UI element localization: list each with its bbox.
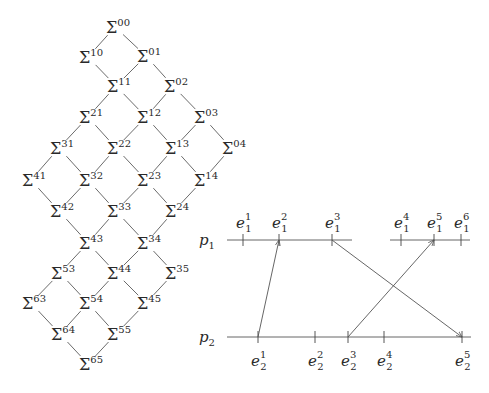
lattice-edge bbox=[210, 125, 223, 140]
event-label: e32 bbox=[341, 349, 357, 372]
lattice-node: Σ53 bbox=[51, 263, 75, 283]
lattice-nodes: Σ00Σ10Σ01Σ11Σ02Σ21Σ12Σ03Σ31Σ22Σ13Σ04Σ41Σ… bbox=[22, 17, 246, 374]
lattice-node: Σ42 bbox=[50, 201, 74, 221]
lattice-edge bbox=[181, 94, 196, 109]
lattice-edge bbox=[95, 311, 108, 326]
message-arrow bbox=[258, 240, 279, 337]
lattice-edge bbox=[153, 125, 166, 140]
lattice-node: Σ54 bbox=[79, 293, 103, 313]
lattice-node: Σ11 bbox=[107, 76, 131, 96]
lattice-node: Σ45 bbox=[137, 293, 161, 313]
lattice-node: Σ03 bbox=[194, 107, 218, 127]
event-label: e31 bbox=[325, 211, 341, 234]
lattice-node: Σ00 bbox=[106, 17, 130, 37]
lattice-edge bbox=[95, 188, 108, 203]
lattice-edge bbox=[124, 156, 139, 172]
event-label: e21 bbox=[272, 211, 288, 234]
lattice-node: Σ23 bbox=[137, 170, 161, 190]
lattice-edge bbox=[124, 94, 139, 109]
lattice-edge bbox=[39, 311, 53, 326]
event-label: e22 bbox=[308, 349, 324, 372]
process-label: p2 bbox=[199, 328, 215, 348]
event-label: e51 bbox=[427, 211, 443, 234]
lattice-node: Σ22 bbox=[107, 138, 131, 158]
event-label: e52 bbox=[455, 349, 471, 372]
event-label: e41 bbox=[394, 211, 410, 234]
lattice-node: Σ14 bbox=[194, 170, 218, 190]
lattice-edge bbox=[66, 156, 80, 172]
lattice-node: Σ32 bbox=[79, 170, 103, 190]
event-label: e42 bbox=[377, 349, 393, 372]
lattice-node: Σ24 bbox=[165, 201, 189, 221]
lattice-node: Σ44 bbox=[107, 263, 131, 283]
lattice-edge bbox=[181, 156, 195, 172]
lattice-node: Σ02 bbox=[164, 76, 188, 96]
lattice-edge bbox=[153, 64, 165, 78]
lattice-edge bbox=[68, 281, 81, 295]
message-arrow bbox=[332, 240, 462, 337]
lattice-node: Σ21 bbox=[79, 107, 103, 127]
sigma-lattice: Σ00Σ10Σ01Σ11Σ02Σ21Σ12Σ03Σ31Σ22Σ13Σ04Σ41Σ… bbox=[22, 17, 246, 374]
lattice-node: Σ43 bbox=[79, 233, 103, 253]
process-label: p1 bbox=[199, 231, 215, 251]
lattice-node: Σ10 bbox=[79, 47, 103, 67]
lattice-node: Σ65 bbox=[79, 354, 103, 374]
event-labels: p1e11e21e31e41e51e61p2e12e22e32e42e52 bbox=[199, 211, 471, 372]
lattice-node: Σ04 bbox=[222, 138, 246, 158]
lattice-node: Σ12 bbox=[137, 107, 161, 127]
process-lines bbox=[227, 234, 471, 343]
space-time-diagram: p1e11e21e31e41e51e61p2e12e22e32e42e52 bbox=[199, 211, 471, 372]
lattice-edge bbox=[153, 188, 166, 203]
lattice-node: Σ63 bbox=[22, 293, 46, 313]
lattice-node: Σ33 bbox=[107, 201, 131, 221]
lattice-node: Σ34 bbox=[137, 233, 161, 253]
lattice-node: Σ41 bbox=[22, 170, 46, 190]
lattice-edge bbox=[68, 342, 81, 356]
lattice-edge bbox=[124, 219, 139, 235]
lattice-node: Σ64 bbox=[51, 324, 75, 344]
lattice-node: Σ35 bbox=[165, 263, 189, 283]
lattice-node: Σ55 bbox=[107, 324, 131, 344]
event-label: e61 bbox=[454, 211, 470, 234]
lattice-edge bbox=[66, 219, 80, 235]
lattice-edge bbox=[123, 35, 138, 49]
lattice-edge bbox=[95, 125, 108, 140]
message-arrow bbox=[348, 240, 434, 337]
message-arrows bbox=[258, 240, 462, 337]
lattice-node: Σ13 bbox=[165, 138, 189, 158]
event-label: e12 bbox=[251, 349, 267, 372]
diagram-canvas: Σ00Σ10Σ01Σ11Σ02Σ21Σ12Σ03Σ31Σ22Σ13Σ04Σ41Σ… bbox=[0, 0, 489, 393]
lattice-edge bbox=[96, 251, 109, 265]
lattice-node: Σ31 bbox=[50, 138, 74, 158]
lattice-edge bbox=[154, 251, 167, 265]
lattice-node: Σ01 bbox=[137, 46, 161, 66]
event-label: e11 bbox=[236, 211, 252, 234]
lattice-edge bbox=[38, 188, 51, 203]
